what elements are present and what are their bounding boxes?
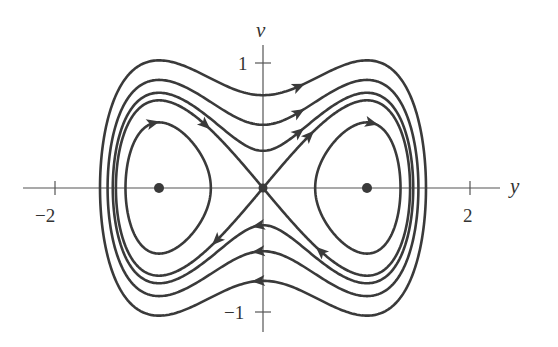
saddle-point [259, 184, 268, 193]
axis-name-y: y [508, 174, 520, 198]
center-point [154, 183, 164, 193]
phase-portrait-plot: −2 2 1 −1 y v [0, 0, 558, 347]
axis-name-v: v [256, 18, 266, 42]
tick-label-pos2: 2 [463, 205, 473, 226]
tick-label-neg1: −1 [224, 302, 244, 323]
tick-label-neg2: −2 [35, 205, 55, 226]
center-point [362, 183, 372, 193]
phase-portrait-figure: −2 2 1 −1 y v [0, 0, 558, 347]
tick-label-pos1: 1 [238, 53, 248, 74]
